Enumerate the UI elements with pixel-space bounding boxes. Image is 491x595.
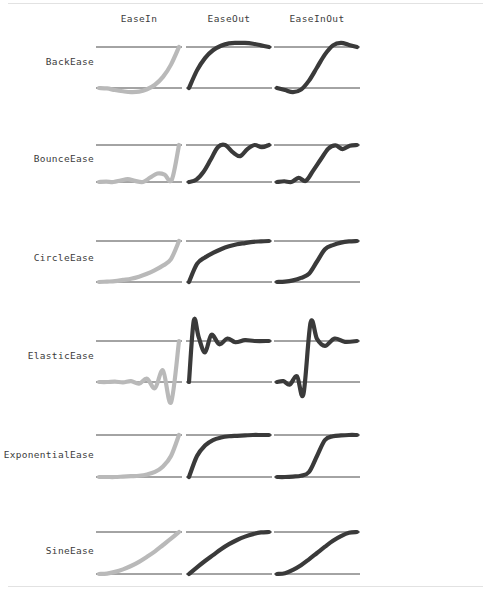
curve-circle-easeinout [277, 241, 357, 282]
curve-sine-easeinout [277, 532, 357, 574]
row-label-exponential: ExponentialEase [4, 449, 94, 461]
curve-back-easeinout [277, 43, 357, 92]
curve-bounce-easeinout [277, 145, 357, 182]
curve-sine-easein [99, 532, 179, 574]
row-label-back: BackEase [46, 56, 94, 68]
easing-cell-sine-easein [96, 480, 182, 595]
curve-elastic-easeout [189, 319, 269, 382]
easing-cell-sine-easeinout [274, 480, 360, 595]
curve-back-easein [99, 47, 179, 92]
row-label-elastic: ElasticEase [28, 350, 94, 362]
easing-cell-sine-easeout [186, 480, 272, 595]
curve-bounce-easein [99, 145, 179, 182]
curve-exponential-easeout [189, 435, 269, 477]
easing-chart-page: EaseInEaseOutEaseInOutBackEaseBounceEase… [0, 0, 491, 595]
curve-exponential-easein [99, 435, 179, 477]
curve-back-easeout [189, 43, 269, 88]
curve-sine-easeout [189, 532, 269, 574]
row-label-circle: CircleEase [34, 252, 94, 264]
row-label-sine: SineEase [46, 545, 94, 557]
curve-bounce-easeout [189, 145, 269, 182]
easing-grid: EaseInEaseOutEaseInOutBackEaseBounceEase… [0, 0, 491, 595]
curve-exponential-easeinout [277, 435, 357, 477]
row-label-bounce: BounceEase [34, 153, 94, 165]
curve-circle-easein [99, 241, 179, 282]
curve-circle-easeout [189, 241, 269, 282]
